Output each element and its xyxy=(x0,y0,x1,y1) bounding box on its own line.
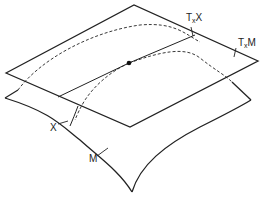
tangent-line xyxy=(58,35,195,97)
label-tangent-space-x: TxX xyxy=(186,12,203,24)
tangent-plane xyxy=(6,5,258,127)
leader-x xyxy=(58,121,68,124)
manifold-hidden-back-edge xyxy=(18,25,200,90)
leader-txm xyxy=(234,48,236,57)
label-submanifold-x: X xyxy=(50,122,57,133)
manifold-surface xyxy=(5,82,251,192)
label-tangent-space-m: TxM xyxy=(238,37,256,49)
tangent-plane-outline xyxy=(6,5,258,127)
label-manifold-m: M xyxy=(89,153,97,164)
base-point-x xyxy=(127,61,132,66)
tangent-line-x xyxy=(58,35,195,97)
manifold-top-left-edge xyxy=(5,90,18,98)
label-leaders xyxy=(58,27,236,156)
manifold-right-upper-edge xyxy=(232,82,251,100)
submanifold-curve-dashed xyxy=(75,63,129,120)
manifold-left-edge xyxy=(5,98,132,192)
tangent-space-diagram: TxX TxM X M xyxy=(0,0,260,199)
leader-m xyxy=(97,148,108,156)
hidden-curves xyxy=(18,25,232,120)
manifold-right-edge xyxy=(132,100,251,192)
